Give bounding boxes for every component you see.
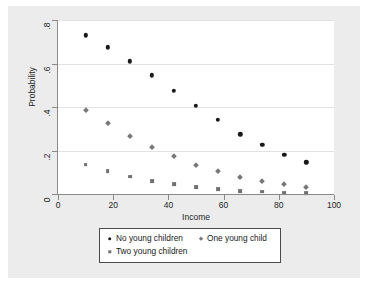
- legend-item-two-young-children: Two young children: [105, 247, 188, 256]
- data-point: [128, 175, 132, 179]
- x-axis-title: Income: [58, 212, 334, 222]
- y-tick-label: .2: [30, 146, 50, 156]
- data-point: [83, 33, 87, 37]
- y-axis-title: Probability: [27, 52, 37, 122]
- circle-marker-icon: [105, 234, 114, 243]
- y-tick-mark: [52, 20, 58, 21]
- data-point: [282, 153, 286, 157]
- plot-area: [58, 20, 334, 194]
- y-tick-mark: [52, 151, 58, 152]
- legend-label: Two young children: [116, 247, 188, 256]
- data-point: [105, 45, 109, 49]
- data-point: [127, 134, 132, 139]
- data-point: [194, 185, 198, 189]
- y-tick-mark: [52, 107, 58, 108]
- data-point: [260, 143, 264, 147]
- data-point: [83, 108, 88, 113]
- x-axis-line: [57, 194, 334, 195]
- scatter-plot-figure: 0.2.4.6.8 020406080100 Income Probabilit…: [0, 0, 368, 286]
- legend-item-one-young-child: One young child: [196, 234, 267, 243]
- data-point: [216, 187, 220, 191]
- data-point: [172, 182, 176, 186]
- y-tick-mark: [52, 64, 58, 65]
- x-tick-label: 60: [209, 200, 239, 211]
- legend-item-no-young-children: No young children: [105, 234, 183, 243]
- x-tick-label: 100: [319, 200, 349, 211]
- x-tick-label: 80: [264, 200, 294, 211]
- chart-legend: No young children One young child Two yo…: [99, 228, 281, 263]
- data-point: [237, 174, 242, 179]
- legend-label: One young child: [207, 234, 267, 243]
- data-point: [105, 121, 110, 126]
- data-point: [260, 190, 264, 194]
- data-point: [260, 178, 265, 183]
- x-tick-label: 40: [153, 200, 183, 211]
- data-point: [150, 73, 154, 77]
- data-point: [171, 153, 176, 158]
- data-point: [238, 132, 242, 136]
- legend-label: No young children: [116, 234, 183, 243]
- diamond-marker-icon: [196, 234, 205, 243]
- data-point: [193, 162, 198, 167]
- data-points-layer: [58, 20, 334, 194]
- x-tick-label: 0: [43, 200, 73, 211]
- data-point: [194, 104, 198, 108]
- x-tick-label: 20: [98, 200, 128, 211]
- data-point: [128, 59, 132, 63]
- data-point: [282, 182, 287, 187]
- data-point: [106, 169, 110, 173]
- square-marker-icon: [105, 247, 114, 256]
- data-point: [304, 160, 308, 164]
- data-point: [304, 185, 309, 190]
- data-point: [150, 179, 154, 183]
- data-point: [172, 88, 176, 92]
- data-point: [216, 118, 220, 122]
- y-tick-label: .8: [30, 15, 50, 25]
- y-tick-label: 0: [30, 189, 50, 199]
- data-point: [84, 163, 88, 167]
- data-point: [238, 189, 242, 193]
- data-point: [215, 168, 220, 173]
- data-point: [149, 145, 154, 150]
